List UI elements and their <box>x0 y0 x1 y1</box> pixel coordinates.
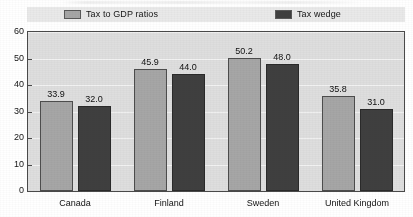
bar-united-kingdom-series-1 <box>360 109 393 191</box>
bar-canada-series-0 <box>40 101 73 191</box>
legend-entry-tax-wedge: Tax wedge <box>275 8 341 21</box>
legend-swatch-icon-series-0 <box>64 10 81 19</box>
y-axis-tick-mark <box>28 165 32 166</box>
scan-artifact <box>62 1 362 4</box>
bar-value-label: 32.0 <box>72 95 117 104</box>
x-axis-category-label: Sweden <box>216 198 310 209</box>
bar-canada-series-1 <box>78 106 111 191</box>
gridline <box>28 59 404 60</box>
y-axis-tick-mark <box>28 138 32 139</box>
legend-swatch-icon-series-1 <box>275 10 292 19</box>
bar-sweden-series-1 <box>266 64 299 191</box>
bar-finland-series-0 <box>134 69 167 191</box>
bar-value-label: 48.0 <box>260 53 305 62</box>
y-axis-tick-label: 10 <box>2 160 24 169</box>
bar-value-label: 44.0 <box>166 63 211 72</box>
y-axis-tick-label: 0 <box>2 186 24 195</box>
chart-legend: Tax to GDP ratios Tax wedge <box>27 7 405 22</box>
y-axis-tick-label: 50 <box>2 54 24 63</box>
gridline <box>28 32 404 33</box>
y-axis-tick-label: 20 <box>2 133 24 142</box>
x-axis-category-label: Finland <box>122 198 216 209</box>
y-axis-tick-label: 30 <box>2 107 24 116</box>
bar-chart: Tax to GDP ratios Tax wedge 010203040506… <box>0 0 413 217</box>
bar-value-label: 31.0 <box>354 98 399 107</box>
x-axis-category-label: Canada <box>28 198 122 209</box>
legend-label-series-0: Tax to GDP ratios <box>86 9 158 20</box>
legend-entry-tax-to-gdp-ratios: Tax to GDP ratios <box>64 8 158 21</box>
y-axis-tick-mark <box>28 112 32 113</box>
plot-inner <box>28 32 404 191</box>
bar-value-label: 35.8 <box>316 85 361 94</box>
y-axis-tick-label: 40 <box>2 80 24 89</box>
bar-sweden-series-0 <box>228 58 261 191</box>
y-axis-tick-mark <box>28 59 32 60</box>
plot-area <box>27 31 405 192</box>
bar-united-kingdom-series-0 <box>322 96 355 191</box>
y-axis-tick-label: 60 <box>2 27 24 36</box>
bar-finland-series-1 <box>172 74 205 191</box>
legend-label-series-1: Tax wedge <box>297 9 341 20</box>
y-axis-tick-mark <box>28 85 32 86</box>
y-axis: 0102030405060 <box>0 31 24 192</box>
x-axis-category-label: United Kingdom <box>310 198 404 209</box>
